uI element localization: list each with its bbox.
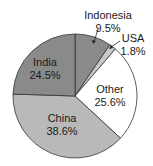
indonesia-label: Indonesia xyxy=(84,9,133,21)
usa-label: USA xyxy=(122,32,145,44)
china-pct: 38.6% xyxy=(46,125,77,137)
indonesia-pct: 9.5% xyxy=(95,22,120,34)
usa-pct: 1.8% xyxy=(120,45,145,57)
india-label: India xyxy=(33,56,58,68)
other-label: Other xyxy=(96,83,124,95)
india-pct: 24.5% xyxy=(29,69,60,81)
other-pct: 25.6% xyxy=(94,96,125,108)
china-label: China xyxy=(48,112,78,124)
pie-chart: Indonesia 9.5% USA 1.8% Other 25.6% Chin… xyxy=(0,0,153,166)
usa-leader-line xyxy=(111,41,120,47)
